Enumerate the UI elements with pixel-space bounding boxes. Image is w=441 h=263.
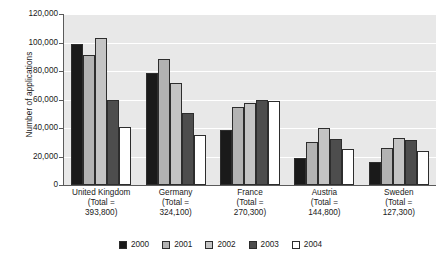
bar-group: [220, 14, 280, 185]
category-label-line: Austria: [287, 188, 361, 198]
bar[interactable]: [71, 44, 83, 185]
x-axis-category-label: United Kingdom(Total =393,800): [64, 188, 138, 219]
category-label-line: (Total =: [138, 198, 212, 208]
legend-swatch-icon: [249, 241, 257, 249]
bar[interactable]: [306, 142, 318, 185]
category-label-line: 393,800): [64, 208, 138, 218]
legend-label: 2000: [131, 240, 149, 249]
legend-item[interactable]: 2003: [249, 240, 279, 249]
bar-group: [294, 14, 354, 185]
y-tick-label: 20,000: [14, 153, 58, 161]
legend-swatch-icon: [205, 241, 213, 249]
bar[interactable]: [381, 148, 393, 185]
legend-item[interactable]: 2001: [162, 240, 192, 249]
category-label-line: Germany: [138, 188, 212, 198]
y-tick-label: 120,000: [14, 10, 58, 18]
bar[interactable]: [318, 128, 330, 185]
legend-label: 2001: [174, 240, 192, 249]
bar-group: [369, 14, 429, 185]
bar[interactable]: [146, 73, 158, 185]
category-label-line: (Total =: [287, 198, 361, 208]
bar[interactable]: [417, 151, 429, 185]
bar-chart: Number of applications 120,000100,00080,…: [0, 0, 441, 263]
y-axis-tick-mark: [59, 43, 63, 44]
category-label-line: 144,800): [287, 208, 361, 218]
bar[interactable]: [330, 139, 342, 185]
category-label-line: (Total =: [64, 198, 138, 208]
y-axis-tick-mark: [59, 14, 63, 15]
legend-label: 2002: [217, 240, 235, 249]
category-label-line: (Total =: [362, 198, 436, 208]
x-axis-category-label: Austria(Total =144,800): [287, 188, 361, 219]
bar[interactable]: [119, 127, 131, 185]
bar[interactable]: [95, 38, 107, 185]
y-axis-tick-labels: 120,000100,00080,00060,00040,00020,0000: [10, 0, 58, 263]
category-label-line: United Kingdom: [64, 188, 138, 198]
legend-label: 2004: [304, 240, 322, 249]
bar[interactable]: [256, 100, 268, 185]
bar[interactable]: [268, 101, 280, 185]
bar[interactable]: [158, 59, 170, 185]
y-tick-label: 60,000: [14, 96, 58, 104]
bar[interactable]: [220, 130, 232, 185]
y-axis-tick-mark: [59, 100, 63, 101]
legend-swatch-icon: [292, 241, 300, 249]
category-label-line: Sweden: [362, 188, 436, 198]
category-label-line: 324,100): [138, 208, 212, 218]
y-axis-tick-mark: [59, 71, 63, 72]
bar[interactable]: [170, 83, 182, 185]
bar[interactable]: [244, 103, 256, 185]
y-axis-tick-mark: [59, 157, 63, 158]
bar[interactable]: [107, 100, 119, 186]
legend-item[interactable]: 2000: [119, 240, 149, 249]
x-axis-category-label: Germany(Total =324,100): [138, 188, 212, 219]
bar[interactable]: [83, 55, 95, 185]
legend-item[interactable]: 2004: [292, 240, 322, 249]
bar[interactable]: [294, 158, 306, 185]
legend-swatch-icon: [119, 241, 127, 249]
bar[interactable]: [232, 107, 244, 185]
category-label-line: France: [213, 188, 287, 198]
legend-item[interactable]: 2002: [205, 240, 235, 249]
category-label-line: 127,300): [362, 208, 436, 218]
bar[interactable]: [369, 162, 381, 186]
y-axis-tick-mark: [59, 128, 63, 129]
bar[interactable]: [182, 113, 194, 185]
bar[interactable]: [342, 149, 354, 185]
y-tick-label: 80,000: [14, 67, 58, 75]
category-label-line: 270,300): [213, 208, 287, 218]
x-axis-category-label: France(Total =270,300): [213, 188, 287, 219]
legend-swatch-icon: [162, 241, 170, 249]
bar[interactable]: [194, 135, 206, 185]
y-axis-tick-mark: [59, 185, 63, 186]
category-label-line: (Total =: [213, 198, 287, 208]
bar[interactable]: [405, 140, 417, 185]
bars-container: [64, 14, 435, 185]
legend-label: 2003: [261, 240, 279, 249]
bar[interactable]: [393, 138, 405, 185]
x-axis-category-labels: United Kingdom(Total =393,800)Germany(To…: [64, 188, 435, 228]
chart-legend: 20002001200220032004: [0, 240, 441, 249]
y-tick-label: 0: [14, 181, 58, 189]
bar-group: [71, 14, 131, 185]
bar-group: [146, 14, 206, 185]
y-tick-label: 100,000: [14, 39, 58, 47]
y-tick-label: 40,000: [14, 124, 58, 132]
x-axis-category-label: Sweden(Total =127,300): [362, 188, 436, 219]
